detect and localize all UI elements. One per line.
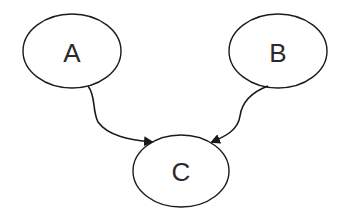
diagram-canvas: A B C xyxy=(0,0,348,217)
node-c-label: C xyxy=(172,157,191,188)
edge-b-to-c xyxy=(212,86,268,142)
node-b-label: B xyxy=(269,38,286,69)
node-a-label: A xyxy=(63,38,80,69)
edge-a-to-c xyxy=(88,86,152,142)
